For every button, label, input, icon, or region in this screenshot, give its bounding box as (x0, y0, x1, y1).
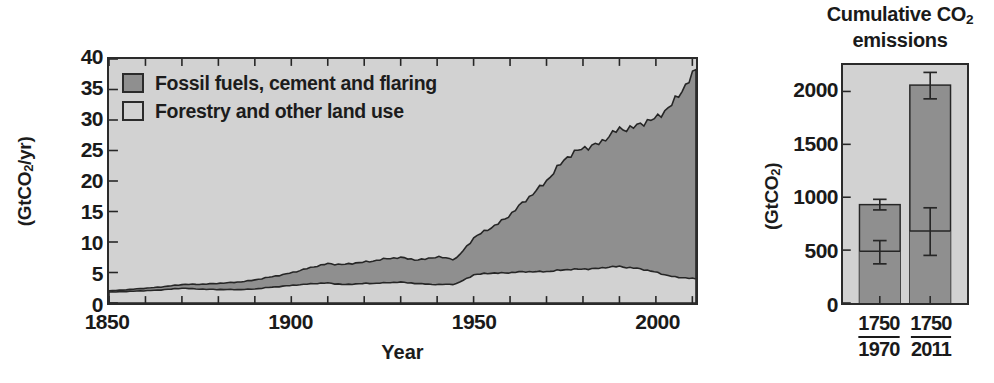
cumulative-emissions-panel: Cumulative CO2emissions 0500100015002000… (705, 0, 994, 383)
right-x-tick-top-1: 1750 (893, 310, 969, 336)
legend-item-0: Fossil fuels, cement and flaring (122, 70, 437, 96)
right-x-tick-group-1: 17502011 (893, 310, 969, 363)
left-y-tick-20: 20 (63, 169, 103, 193)
left-y-tick-35: 35 (63, 76, 103, 100)
right-y-tick-2000: 2000 (764, 78, 838, 102)
cumulative-emissions-title: Cumulative CO2emissions (810, 2, 990, 54)
left-x-axis-ticks: 1850190019502000 (107, 310, 698, 338)
legend-item-1: Forestry and other land use (122, 98, 437, 124)
left-x-tick-1900: 1900 (268, 310, 313, 334)
legend: Fossil fuels, cement and flaringForestry… (122, 70, 437, 126)
legend-label-0: Fossil fuels, cement and flaring (155, 72, 437, 95)
left-y-tick-15: 15 (63, 200, 103, 224)
cumulative-emissions-svg (843, 65, 967, 303)
right-x-tick-bottom-1: 2011 (893, 336, 969, 362)
left-x-axis-label: Year (107, 341, 698, 364)
left-y-axis-label: (GtCO2/yr) (14, 111, 37, 251)
left-y-tick-25: 25 (63, 138, 103, 162)
left-x-tick-1850: 1850 (85, 310, 130, 334)
left-x-tick-2000: 2000 (635, 310, 680, 334)
left-y-tick-40: 40 (63, 45, 103, 69)
right-y-axis-label: (GtCO2) (761, 136, 784, 256)
right-x-axis-ticks: 1750197017502011 (841, 310, 969, 374)
figure-root: 0510152025303540 (GtCO2/yr) Fossil fuels… (0, 0, 994, 383)
legend-swatch-icon-0 (122, 73, 144, 93)
left-y-tick-5: 5 (63, 262, 103, 286)
annual-emissions-panel: 0510152025303540 (GtCO2/yr) Fossil fuels… (0, 0, 705, 383)
legend-swatch-icon-1 (122, 101, 144, 121)
left-x-tick-1950: 1950 (452, 310, 497, 334)
right-y-tick-0: 0 (764, 293, 838, 317)
left-y-tick-10: 10 (63, 231, 103, 255)
cumulative-emissions-plot-area (841, 63, 969, 305)
left-y-tick-30: 30 (63, 107, 103, 131)
left-y-axis-ticks: 0510152025303540 (57, 57, 103, 305)
legend-label-1: Forestry and other land use (155, 100, 404, 123)
